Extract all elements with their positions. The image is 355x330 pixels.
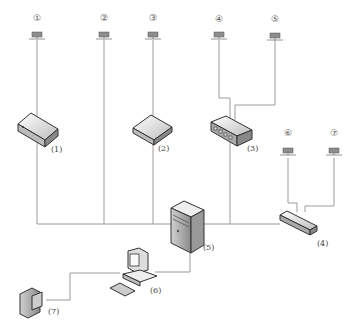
hub-icon: (4) xyxy=(280,211,328,248)
connection-lines xyxy=(37,40,334,300)
svg-text:①: ① xyxy=(33,13,41,23)
server-icon: (5) xyxy=(171,201,214,253)
terminal-3: ③ xyxy=(145,13,161,39)
svg-text:(7): (7) xyxy=(48,307,59,316)
svg-text:(3): (3) xyxy=(247,144,258,153)
svg-text:(4): (4) xyxy=(317,239,328,248)
svg-text:(6): (6) xyxy=(150,286,161,295)
network-diagram: ① ② ③ ④ ⑤ ⑥ ⑦ (1) (2) xyxy=(0,0,355,330)
router-icon: (1) xyxy=(18,113,62,154)
switch-icon: (3) xyxy=(211,116,258,153)
terminal-4: ④ xyxy=(211,14,227,39)
terminal-6: ⑥ xyxy=(280,128,296,155)
svg-text:⑦: ⑦ xyxy=(330,128,338,138)
svg-text:②: ② xyxy=(100,13,108,23)
svg-text:(1): (1) xyxy=(51,145,62,154)
svg-text:⑥: ⑥ xyxy=(284,128,292,138)
svg-text:(5): (5) xyxy=(203,243,214,252)
workstation-icon: (6) xyxy=(110,248,161,296)
svg-text:③: ③ xyxy=(149,13,157,23)
camera-icon: (7) xyxy=(20,288,59,318)
terminal-7: ⑦ xyxy=(326,128,342,155)
terminal-2: ② xyxy=(96,13,112,39)
svg-text:④: ④ xyxy=(215,14,223,24)
terminal-5: ⑤ xyxy=(267,14,283,40)
svg-text:⑤: ⑤ xyxy=(271,14,279,24)
svg-text:(2): (2) xyxy=(158,144,169,153)
terminal-1: ① xyxy=(29,13,45,39)
